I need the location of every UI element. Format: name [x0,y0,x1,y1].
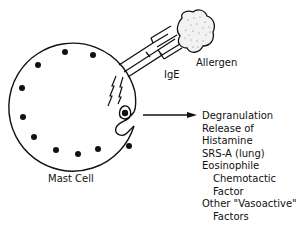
effect-item: Factor [202,186,297,199]
allergen-label: Allergen [196,57,237,69]
effect-item: Histamine [202,135,297,148]
effect-item: Eosinophile [202,160,297,173]
released-granule [126,143,132,149]
effect-item: SRS-A (lung) [202,148,297,161]
mediator-effects-list: Degranulation Release of Histamine SRS-A… [202,110,297,223]
effect-item: Other "Vasoactive" [202,198,297,211]
effect-item: Release of [202,123,297,136]
ige-label: IgE [164,69,180,81]
effect-item: Chemotactic [202,173,297,186]
effect-item: Factors [202,211,297,224]
granule-releasing [122,110,128,116]
mast-cell-membrane [9,43,135,171]
granules [19,49,101,157]
arrow-head-icon [187,112,197,118]
signal-bolt-icon [108,76,116,106]
signal-bolt-icon [118,77,123,104]
allergen-blob [177,10,214,52]
mast-cell-label: Mast Cell [48,173,94,185]
effect-item: Degranulation [202,110,297,123]
